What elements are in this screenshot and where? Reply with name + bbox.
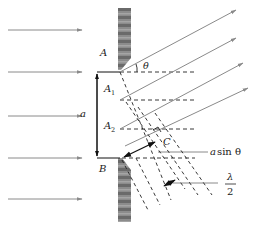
label-C: C	[163, 136, 171, 147]
theta-arc	[136, 64, 137, 72]
incident-rays	[8, 30, 82, 199]
svg-text:2: 2	[227, 186, 233, 197]
svg-text:2: 2	[111, 126, 115, 134]
svg-text:A: A	[103, 83, 111, 94]
svg-text:1: 1	[111, 89, 115, 97]
slit-barrier-top	[118, 8, 131, 70]
label-asin-theta: a sin θ	[210, 146, 241, 157]
label-theta: θ	[143, 60, 149, 71]
normal-reference-lines	[120, 72, 196, 158]
diffraction-diagram: A A 1 A 2 a B C θ a sin θ λ 2	[0, 0, 268, 227]
label-A: A	[99, 47, 107, 58]
diffracted-rays	[120, 10, 248, 183]
svg-text:a: a	[210, 146, 216, 157]
label-lambda-over-2: λ 2	[225, 171, 236, 197]
label-a: a	[80, 108, 86, 119]
label-B: B	[98, 163, 106, 174]
svg-text:λ: λ	[226, 171, 233, 182]
slit-barrier-bottom	[118, 158, 131, 222]
svg-text:A: A	[103, 120, 111, 131]
svg-text:sin θ: sin θ	[217, 146, 241, 157]
label-A2: A 2	[103, 120, 115, 134]
label-A1: A 1	[103, 83, 115, 97]
